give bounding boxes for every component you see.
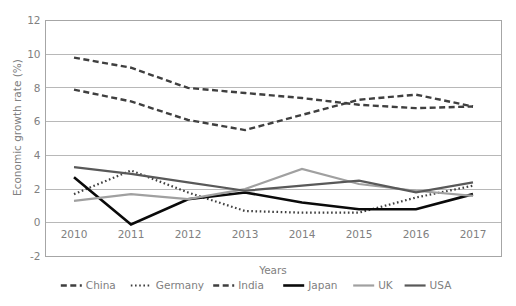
y-tick-label: 2	[34, 183, 41, 195]
x-tick-label: 2012	[175, 228, 202, 240]
legend-label-uk: UK	[378, 279, 394, 291]
legend-label-usa: USA	[430, 279, 453, 291]
series-line-china	[74, 58, 473, 109]
x-axis-tick-labels: 20102011201220132014201520162017	[61, 228, 487, 240]
y-tick-label: 4	[34, 149, 41, 161]
y-tick-label: 6	[34, 115, 41, 127]
legend: ChinaGermanyIndiaJapanUKUSA	[61, 279, 452, 291]
y-tick-label: 12	[27, 14, 40, 26]
economic-growth-rate-line-chart: -2024681012 2010201120122013201420152016…	[0, 0, 516, 306]
legend-label-india: India	[238, 279, 264, 291]
legend-label-japan: Japan	[307, 279, 337, 291]
y-tick-label: -2	[30, 250, 40, 262]
x-axis-title: Years	[258, 264, 287, 276]
x-tick-label: 2015	[346, 228, 373, 240]
y-axis-tick-labels: -2024681012	[27, 14, 41, 262]
x-tick-label: 2011	[118, 228, 145, 240]
x-tick-label: 2010	[61, 228, 88, 240]
y-axis-title: Economic growth rate (%)	[11, 59, 23, 196]
x-tick-label: 2013	[232, 228, 259, 240]
y-tick-label: 10	[27, 48, 40, 60]
series-group	[74, 58, 473, 225]
x-tick-label: 2017	[460, 228, 487, 240]
chart-canvas: -2024681012 2010201120122013201420152016…	[0, 0, 516, 306]
y-tick-label: 0	[34, 216, 41, 228]
legend-label-china: China	[86, 279, 116, 291]
legend-label-germany: Germany	[156, 279, 204, 291]
y-tick-label: 8	[34, 82, 41, 94]
x-tick-label: 2014	[289, 228, 316, 240]
x-tick-label: 2016	[403, 228, 430, 240]
series-line-japan	[74, 177, 473, 224]
gridlines-group	[46, 21, 502, 257]
plot-area-border	[46, 21, 502, 257]
